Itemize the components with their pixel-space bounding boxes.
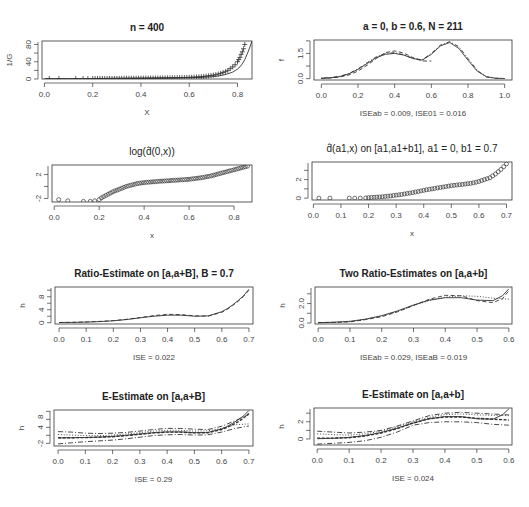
y-axis-label: f (277, 58, 286, 61)
y-axis-label: h (277, 424, 286, 428)
x-tick-label: 0.6 (216, 457, 228, 466)
x-tick-label: 0.4 (418, 211, 430, 220)
y-tick-label: 4 (36, 425, 45, 430)
series-group (44, 41, 252, 81)
chart-canvas: n = 4000.00.20.40.60.8X040801/Ga = 0, b … (0, 0, 529, 507)
x-tick-label: 0.4 (389, 91, 401, 100)
x-tick-label: 0.4 (162, 335, 174, 344)
x-tick-label: 0.2 (87, 90, 99, 99)
y-tick-label: 40 (24, 57, 33, 66)
x-axis-label: x (410, 229, 414, 238)
series-line (317, 422, 509, 444)
scatter-points (317, 162, 509, 200)
x-tick-label: 0.6 (426, 91, 438, 100)
x-tick-label: 0.2 (363, 211, 375, 220)
plot-title: Ratio-Estimate on [a,a+B], B = 0.7 (74, 268, 234, 279)
y-axis: 02 (294, 163, 308, 200)
plot-panel-p1: n = 4000.00.20.40.60.8X040801/G (5, 22, 252, 117)
x-tick-label: 0.5 (446, 211, 458, 220)
y-axis: 048h (18, 288, 51, 325)
y-tick-label: 0 (37, 320, 46, 325)
x-axis: 0.00.20.40.60.8x (49, 206, 240, 240)
plot-panel-p8: E-Estimate on [a,a+b]0.00.10.20.30.40.50… (277, 389, 515, 483)
plot-frame (55, 287, 253, 324)
series-line (59, 290, 249, 322)
x-tick-label: 0.0 (312, 456, 324, 465)
x-axis: 0.00.10.20.30.40.50.6ISE = 0.024 (312, 449, 515, 483)
x-tick-label: 0.7 (243, 335, 255, 344)
x-axis: 0.00.10.20.30.40.50.60.7x (308, 204, 513, 238)
x-tick-label: 0.2 (107, 457, 119, 466)
x-tick-label: 0.1 (80, 457, 92, 466)
plot-panel-p4: d̂(a1,x) on [a1,a1+b1], a1 = 0, b1 = 0.7… (294, 143, 513, 238)
x-axis-label: X (144, 108, 150, 117)
y-tick-label: 80 (24, 39, 33, 48)
y-axis: 0.01.5f (277, 41, 310, 84)
plot-subtitle: ISE = 0.29 (135, 475, 173, 484)
y-tick-label: 1.5 (296, 47, 305, 59)
x-tick-label: 0.5 (189, 335, 201, 344)
plot-title: log(d̂(0,x)) (129, 146, 175, 157)
x-tick-label: 0.4 (135, 90, 147, 99)
y-axis: 0.02.0h (278, 288, 311, 329)
y-axis-label: 1/G (5, 54, 14, 67)
x-tick-label: 0.5 (471, 335, 483, 344)
y-axis: 040801/G (5, 39, 38, 81)
series-line (58, 414, 249, 438)
y-tick-label: -2 (34, 194, 43, 202)
x-tick-label: 0.0 (316, 91, 328, 100)
y-axis: 02h (277, 409, 310, 441)
x-tick-label: 0.4 (162, 457, 174, 466)
x-tick-label: 0.6 (216, 335, 228, 344)
series-group (321, 42, 504, 79)
y-tick-label: 0.0 (296, 73, 305, 85)
plot-title: d̂(a1,x) on [a1,a1+b1], a1 = 0, b1 = 0.7 (327, 143, 498, 154)
series-line (59, 289, 249, 322)
x-tick-label: 0.3 (407, 456, 419, 465)
y-tick-label: 2 (296, 419, 305, 424)
plot-subtitle: ISE = 0.022 (133, 353, 176, 362)
plot-panel-p3: log(d̂(0,x))0.00.20.40.60.8x-22 (34, 146, 252, 240)
x-tick-label: 0.5 (189, 457, 201, 466)
y-tick-label: 0.0 (297, 317, 306, 329)
plot-panel-p2: a = 0, b = 0.6, N = 2110.00.20.40.60.81.… (277, 21, 512, 118)
series-line (317, 414, 509, 435)
x-tick-label: 0.2 (94, 213, 106, 222)
x-tick-label: 0.0 (39, 90, 51, 99)
x-tick-label: 0.2 (376, 335, 388, 344)
x-axis: 0.00.20.40.60.8X (39, 83, 244, 117)
x-tick-label: 0.7 (501, 211, 513, 220)
x-tick-label: 0.0 (308, 211, 320, 220)
x-tick-label: 0.8 (228, 213, 240, 222)
y-axis-label: h (278, 303, 287, 307)
x-tick-label: 0.6 (184, 213, 196, 222)
y-tick-label: 0 (296, 436, 305, 441)
y-axis-label: h (18, 303, 27, 307)
x-axis-label: x (150, 231, 154, 240)
plot-panel-p5: Ratio-Estimate on [a,a+B], B = 0.70.00.1… (18, 268, 255, 362)
x-tick-label: 0.2 (108, 335, 120, 344)
y-tick-label: 4 (37, 307, 46, 312)
x-tick-label: 0.6 (503, 456, 515, 465)
x-tick-label: 0.0 (49, 213, 61, 222)
x-tick-label: 0.6 (473, 211, 485, 220)
plot-title: n = 400 (130, 22, 165, 33)
series-line (321, 51, 431, 78)
y-axis-label: h (17, 426, 26, 430)
x-tick-label: 0.4 (139, 213, 151, 222)
x-tick-label: 0.0 (53, 457, 65, 466)
series-group (59, 289, 249, 322)
figure-grid: n = 4000.00.20.40.60.8X040801/Ga = 0, b … (0, 0, 529, 507)
x-tick-label: 0.0 (54, 335, 66, 344)
series-group (58, 411, 249, 444)
series-group (317, 162, 509, 200)
x-axis: 0.00.20.40.60.81.0ISEab = 0.009, ISE01 =… (316, 84, 511, 118)
x-tick-label: 1.0 (499, 91, 511, 100)
series-line (58, 411, 249, 438)
series-line (321, 42, 504, 79)
x-tick-label: 0.1 (344, 335, 356, 344)
series-group (57, 164, 250, 203)
x-tick-label: 0.5 (471, 456, 483, 465)
x-tick-label: 0.1 (344, 456, 356, 465)
x-tick-label: 0.3 (135, 335, 147, 344)
